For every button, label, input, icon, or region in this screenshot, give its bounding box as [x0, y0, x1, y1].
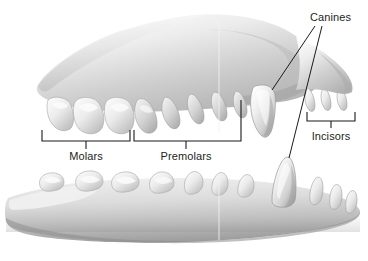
- incisors-label: Incisors: [312, 130, 351, 142]
- canines-label: Canines: [310, 11, 351, 23]
- dentition-illustration: Canines Incisors Molars Premolars: [0, 0, 368, 261]
- lower-jaw-shade-band: [6, 208, 360, 232]
- molars-label: Molars: [69, 150, 103, 162]
- premolars-label: Premolars: [160, 150, 211, 162]
- dentition-figure: Canines Incisors Molars Premolars: [0, 0, 368, 261]
- upper-molar-teeth: [47, 97, 134, 134]
- lower-molar-teeth: [39, 171, 139, 192]
